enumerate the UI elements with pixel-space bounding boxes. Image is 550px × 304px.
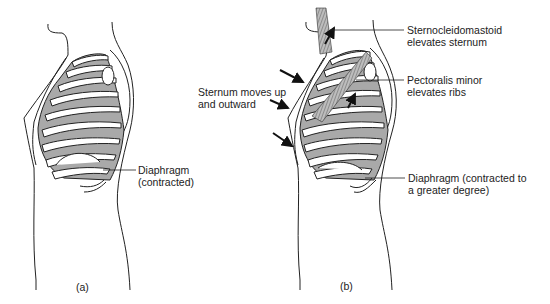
panel-b-diaphragm-label: Diaphragm (contracted to a greater degre… (408, 172, 526, 196)
panel-a-diaphragm-label-line1: Diaphragm (138, 164, 194, 176)
panel-b-caption: (b) (340, 280, 353, 292)
panel-b-diaphragm-label-line1: Diaphragm (contracted to (408, 172, 526, 184)
sternocleidomastoid-label-line1: Sternocleidomastoid (407, 24, 502, 36)
panel-a-diaphragm-label: Diaphragm (contracted) (138, 164, 194, 188)
panel-a-ribcage (38, 54, 124, 192)
panel-a-caption: (a) (76, 281, 89, 293)
sternum-label-line2: and outward (198, 98, 286, 110)
sternocleidomastoid-label: Sternocleidomastoid elevates sternum (407, 24, 502, 48)
sternocleidomastoid-muscle (316, 8, 332, 54)
sternum-label: Sternum moves up and outward (198, 86, 286, 110)
pectoralis-minor-label-line1: Pectoralis minor (407, 74, 482, 86)
arrow-sternum-1 (280, 70, 303, 82)
arrow-sternum-3 (273, 133, 292, 146)
sternum-label-line1: Sternum moves up (198, 86, 286, 98)
panel-b-ribcage (300, 50, 388, 192)
pectoralis-minor-label: Pectoralis minor elevates ribs (407, 74, 482, 98)
panel-b-diaphragm-label-line2: a greater degree) (408, 184, 526, 196)
sternocleidomastoid-label-line2: elevates sternum (407, 36, 502, 48)
pectoralis-minor-label-line2: elevates ribs (407, 86, 482, 98)
panel-a-diaphragm-label-line2: (contracted) (138, 176, 194, 188)
